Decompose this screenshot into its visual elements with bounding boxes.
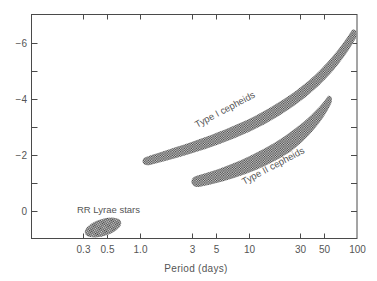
x-tick-label: 1.0 [134, 244, 148, 255]
x-tick-label: 0.3 [77, 244, 91, 255]
x-tick-label: 0.5 [101, 244, 115, 255]
x-axis-title: Period (days) [164, 263, 227, 274]
rr-lyrae-region [82, 214, 123, 242]
x-tick-label: 30 [295, 244, 307, 255]
period-luminosity-chart: 0.30.51.035103050100 −6−4−20 Type I ceph… [0, 0, 377, 281]
x-tick-label: 3 [190, 244, 196, 255]
y-tick-label: −6 [16, 38, 28, 49]
x-axis-tick-labels: 0.30.51.035103050100 [77, 244, 367, 255]
x-tick-label: 100 [349, 244, 366, 255]
y-axis-tick-labels: −6−4−20 [16, 38, 28, 217]
y-tick-label: −2 [16, 150, 28, 161]
x-tick-label: 50 [319, 244, 331, 255]
y-tick-label: −4 [16, 94, 28, 105]
x-tick-label: 5 [214, 244, 220, 255]
x-tick-label: 10 [244, 244, 256, 255]
y-tick-label: 0 [21, 206, 27, 217]
rr-lyrae-label: RR Lyrae stars [77, 204, 140, 215]
